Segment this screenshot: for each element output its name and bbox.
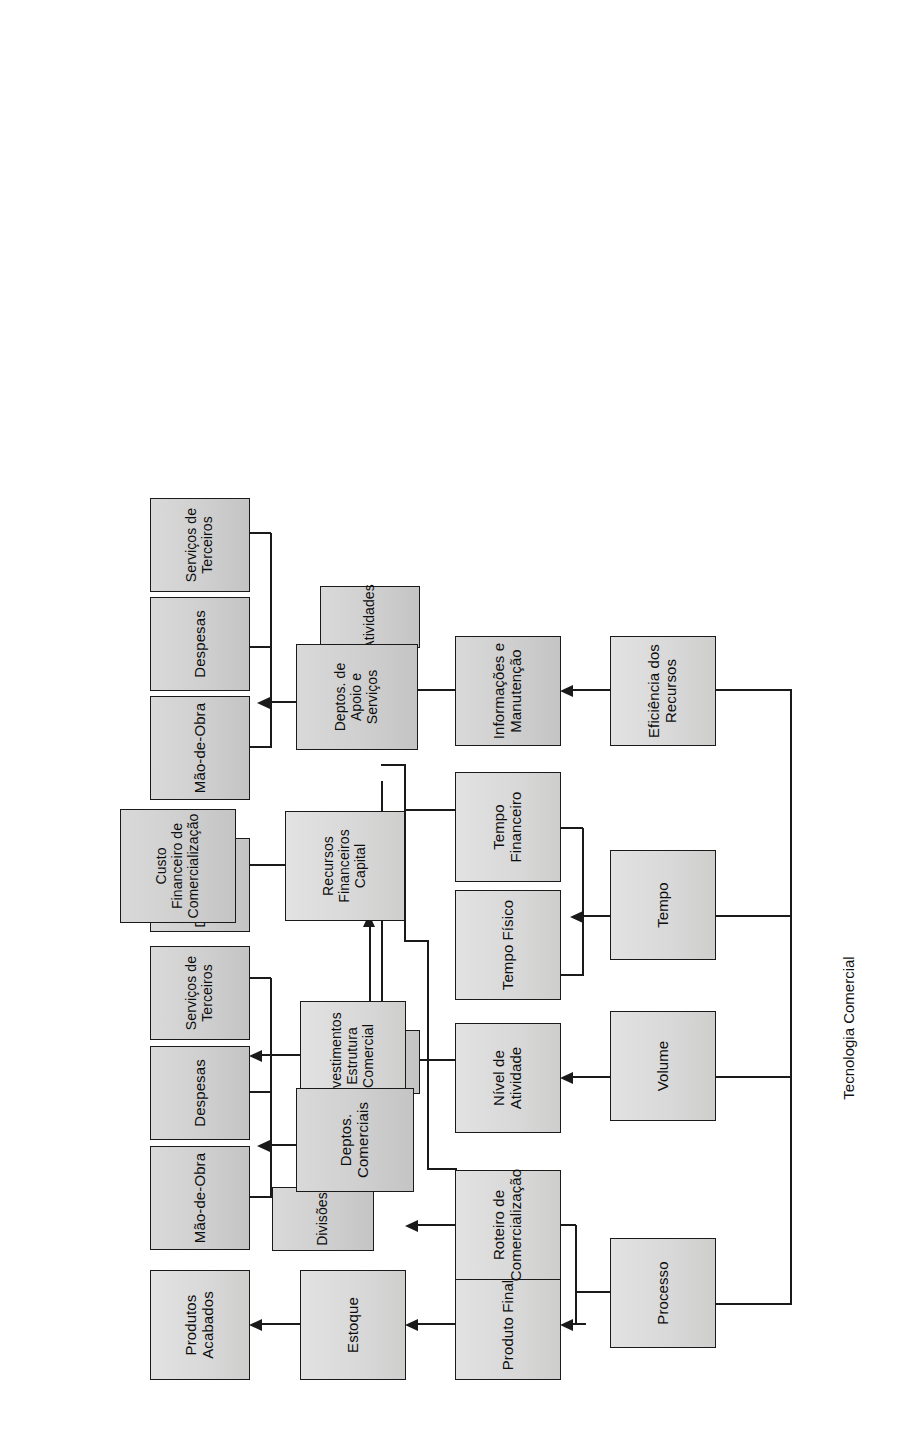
bus-stub-volume — [716, 1076, 792, 1078]
node-tempo[interactable]: Tempo — [610, 850, 716, 960]
arrow-tempo-split — [570, 911, 583, 923]
edge-roteiro-right-riser — [427, 1168, 457, 1170]
edge-fan-to-despesas-1 — [250, 1091, 271, 1093]
edge-processo-to-produto-final — [572, 1323, 586, 1325]
edge-informacoes-to-deptos-apoio — [418, 689, 456, 691]
edge-routing-bus-b — [427, 941, 429, 1061]
node-servicos-de-terceiros-comercial[interactable]: Serviços de Terceiros — [150, 946, 250, 1040]
arrow-to-estoque — [405, 1319, 418, 1331]
edge-processo-elbow-right — [575, 1225, 577, 1293]
node-processo[interactable]: Processo — [610, 1238, 716, 1348]
edge-recursos-to-custo-financeiro — [247, 864, 286, 866]
edge-routing-bus-a — [427, 1060, 429, 1170]
edge-bus-b-riser — [404, 940, 429, 942]
node-divisoes[interactable]: Divisões — [272, 1187, 374, 1251]
arrow-to-depreciacao — [249, 1050, 262, 1062]
bus-stub-tempo — [716, 915, 792, 917]
edge-fan-to-mao-de-obra-1 — [250, 1196, 271, 1198]
arrow-to-nivel-atividade — [560, 1072, 573, 1084]
node-volume[interactable]: Volume — [610, 1011, 716, 1121]
node-estoque[interactable]: Estoque — [300, 1270, 406, 1380]
arrow-to-produto-final — [560, 1319, 573, 1331]
arrow-to-informacoes — [560, 685, 573, 697]
node-mao-de-obra-apoio[interactable]: Mão-de-Obra — [150, 696, 250, 800]
edge-bus-c-drop-tempofin — [404, 809, 457, 811]
node-mao-de-obra-comercial[interactable]: Mão-de-Obra — [150, 1146, 250, 1250]
edge-eficiencia-to-informacoes — [573, 689, 611, 691]
node-recursos-financeiros-capital[interactable]: Recursos Financeiros Capital — [285, 811, 405, 921]
edge-fan-to-servicos-1 — [250, 977, 271, 979]
edge-deptos-com-stem — [270, 1144, 297, 1146]
edge-recursos-feed-b — [404, 765, 406, 811]
edge-recursos-riser-b — [381, 764, 406, 766]
edge-fan-to-despesas-2 — [250, 646, 271, 648]
edge-fan-to-mao-de-obra-2 — [250, 746, 271, 748]
node-nivel-de-atividade[interactable]: Nível de Atividade — [455, 1023, 561, 1133]
edge-roteiro-to-deptos-comerciais — [418, 1224, 456, 1226]
edge-tempo-to-tempo-financeiro — [561, 827, 583, 829]
node-produto-final[interactable]: Produto Final — [455, 1270, 561, 1380]
edge-tempo-to-tempo-fisico — [561, 974, 583, 976]
node-informacoes-e-manutencao[interactable]: Informações e Manutenção — [455, 636, 561, 746]
bus-stub-processo — [716, 1303, 792, 1305]
edge-processo-to-roteiro — [561, 1224, 576, 1226]
node-tempo-financeiro[interactable]: Tempo Financeiro — [455, 772, 561, 882]
node-despesas-apoio[interactable]: Despesas — [150, 597, 250, 691]
arrow-deptos-apoio-fan — [257, 697, 270, 709]
edge-deptos-apoio-stem — [270, 701, 297, 703]
edge-volume-to-nivel — [573, 1076, 611, 1078]
edge-fan-to-servicos-2 — [250, 532, 271, 534]
node-produtos-acabados[interactable]: Produtos Acabados — [150, 1270, 250, 1380]
node-atividades-apoio[interactable]: Atividades — [320, 586, 420, 648]
arrow-to-produtos-acabados — [249, 1319, 262, 1331]
node-tempo-fisico[interactable]: Tempo Físico — [455, 890, 561, 1000]
node-despesas-comercial[interactable]: Despesas — [150, 1046, 250, 1140]
node-eficiencia-dos-recursos[interactable]: Eficiência dos Recursos — [610, 636, 716, 746]
bus-line-horizontal — [790, 689, 792, 1305]
edge-investimentos-to-depreciacao — [262, 1054, 300, 1056]
edge-deptos-com-fan-bar — [270, 978, 272, 1198]
edge-tempo-stem — [582, 915, 611, 917]
bus-stub-eficiencia — [716, 689, 792, 691]
arrow-deptos-comerciais-fan — [257, 1140, 270, 1152]
label-tecnologia-comercial: Tecnologia Comercial — [840, 948, 858, 1108]
node-custo-financeiro-de-comercializacao[interactable]: Custo Financeiro de Comercialização — [120, 809, 236, 923]
node-deptos-de-apoio-e-servicos[interactable]: Deptos. de Apoio e Serviços — [296, 644, 418, 750]
edge-processo-elbow-left — [575, 1292, 577, 1325]
node-servicos-de-terceiros-apoio[interactable]: Serviços de Terceiros — [150, 498, 250, 592]
edge-tempo-split-bar — [582, 828, 584, 976]
node-deptos-comerciais[interactable]: Deptos. Comerciais — [296, 1088, 414, 1192]
node-roteiro-de-comercializacao[interactable]: Roteiro de Comercialização — [455, 1170, 561, 1280]
edge-bus-a-drop-nivel — [427, 1059, 457, 1061]
edge-deptos-apoio-fan-bar — [270, 533, 272, 748]
edge-processo-elbow-up — [575, 1291, 611, 1293]
edge-estoque-to-produtos-acabados — [262, 1323, 300, 1325]
rotated-page-wrapper: Processo Volume Tempo Eficiência dos Rec… — [0, 0, 912, 1448]
arrow-to-deptos-comerciais — [405, 1220, 418, 1232]
edge-produto-final-to-estoque — [418, 1323, 456, 1325]
flowchart-canvas: Processo Volume Tempo Eficiência dos Rec… — [0, 0, 912, 1448]
